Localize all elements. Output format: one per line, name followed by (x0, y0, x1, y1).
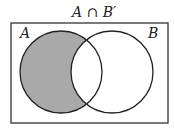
set-a-label: A (18, 25, 30, 41)
venn-diagram: A ∩ B′ A B (0, 0, 175, 128)
diagram-title: A ∩ B′ (70, 4, 117, 20)
set-b-label: B (147, 25, 158, 41)
